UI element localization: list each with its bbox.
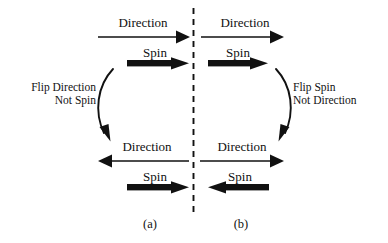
panel-a-top-direction-label: Direction (118, 15, 168, 30)
panel-a-note-line2: Not Spin (55, 94, 96, 107)
panel-b-note-line1: Flip Spin (293, 81, 336, 94)
panel-a-caption: (a) (143, 217, 157, 231)
panel-a-bottom-spin-label: Spin (143, 169, 167, 184)
panel-b-bottom-direction-arrow-right (200, 155, 284, 168)
panel-b-note-line2: Not Direction (293, 94, 357, 106)
panel-a-bottom-direction-label: Direction (122, 139, 172, 154)
panel-a-note-line1: Flip Direction (31, 81, 96, 94)
panel-b-bottom-direction-label: Direction (217, 139, 267, 154)
panel-b-top-spin-label: Spin (226, 45, 250, 60)
panel-b-top-direction-arrow-right (201, 31, 284, 44)
physics-direction-spin-figure: Direction Spin Flip Direction Not Spin D… (0, 0, 388, 243)
panel-b-caption: (b) (234, 217, 249, 231)
panel-a-top-spin-label: Spin (143, 45, 167, 60)
panel-b-bottom-spin-label: Spin (228, 169, 252, 184)
panel-b-top-direction-label: Direction (220, 15, 270, 30)
panel-a-bottom-direction-arrow-left (98, 155, 189, 168)
panel-a-top-direction-arrow-right (98, 31, 190, 44)
panel-b-flip-curved-arrow (276, 69, 291, 142)
panel-a-flip-curved-arrow (98, 69, 113, 142)
